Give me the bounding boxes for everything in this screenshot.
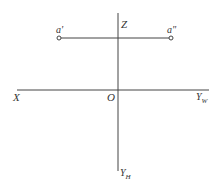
yw-axis-subscript: W xyxy=(202,97,209,105)
yh-axis-subscript: H xyxy=(125,173,132,181)
projection-diagram: Z a' a" X O YW YH xyxy=(0,0,221,184)
z-axis-label: Z xyxy=(121,18,128,30)
yw-axis-label: YW xyxy=(196,91,209,105)
x-axis-label: X xyxy=(12,91,21,103)
yh-axis-label: YH xyxy=(120,167,132,181)
point-a-side-marker xyxy=(169,36,173,40)
point-a-side-label: a" xyxy=(167,24,177,35)
origin-label: O xyxy=(107,91,115,103)
point-a-front-label: a' xyxy=(56,24,64,35)
point-a-front-marker xyxy=(57,36,61,40)
